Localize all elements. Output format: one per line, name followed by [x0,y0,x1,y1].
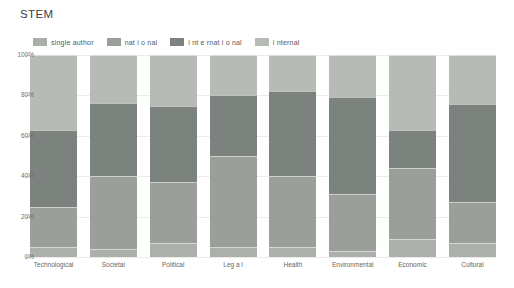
stacked-bar-environmental [329,55,376,257]
bar-segment [210,95,257,156]
y-axis-label: 60% [8,132,34,139]
bar-segment [329,251,376,257]
bar-segment [150,106,197,183]
bar-segment [90,176,137,249]
chart-title: STEM [20,8,54,20]
legend-item: i nt e rnat i o nal [170,38,242,46]
y-axis-label: 40% [8,172,34,179]
y-axis-label: 0% [8,253,34,260]
bars-container [30,55,496,257]
bar-segment [210,247,257,257]
bar-segment [150,243,197,257]
bar-segment [210,156,257,247]
legend-label: i nternal [273,39,300,46]
x-axis-label: Cultural [449,261,496,268]
bar-segment [269,91,316,176]
stacked-bar-legal [210,55,257,257]
bar-segment [329,194,376,251]
bar-segment [30,130,77,207]
stacked-bar-political [150,55,197,257]
legend-swatch-icon [170,38,184,46]
gridline [30,257,496,258]
bar-segment [389,168,436,239]
bar-segment [269,247,316,257]
legend-swatch-icon [255,38,269,46]
legend-item: single author [33,38,94,46]
bar-segment [210,55,257,95]
x-axis-label: Environmental [329,261,376,268]
x-axis-label: Technological [30,261,77,268]
stacked-bar-technological [30,55,77,257]
bar-segment [449,55,496,103]
bar-segment [329,97,376,194]
bar-segment [389,55,436,130]
stacked-bar-health [269,55,316,257]
bar-segment [329,55,376,97]
x-axis-label: Leg a l [210,261,257,268]
bar-segment [269,55,316,91]
bar-segment [150,182,197,243]
stacked-bar-economic [389,55,436,257]
bar-segment [389,130,436,168]
bar-segment [269,176,316,247]
bar-segment [150,55,197,106]
x-axis-label: Political [150,261,197,268]
legend-item: i nternal [255,38,300,46]
y-axis-label: 80% [8,91,34,98]
bar-segment [90,249,137,257]
y-axis-label: 20% [8,213,34,220]
x-axis-label: Economic [389,261,436,268]
bar-segment [90,55,137,103]
legend-swatch-icon [33,38,47,46]
bar-segment [449,104,496,203]
plot-area [30,55,496,257]
bar-segment [30,207,77,247]
stacked-bar-cultural [449,55,496,257]
bar-segment [90,103,137,176]
x-axis-label: Societal [90,261,137,268]
chart-legend: single authornat i o nali nt e rnat i o … [33,38,300,46]
x-axis-labels: TechnologicalSocietalPoliticalLeg a lHea… [30,261,496,268]
legend-label: nat i o nal [125,39,158,46]
legend-label: i nt e rnat i o nal [188,39,242,46]
bar-segment [30,247,77,257]
x-axis-label: Health [269,261,316,268]
bar-segment [449,202,496,242]
bar-segment [449,243,496,257]
legend-label: single author [51,39,94,46]
legend-swatch-icon [107,38,121,46]
y-axis-label: 100% [8,51,34,58]
stacked-bar-societal [90,55,137,257]
bar-segment [389,239,436,257]
legend-item: nat i o nal [107,38,158,46]
bar-segment [30,55,77,130]
